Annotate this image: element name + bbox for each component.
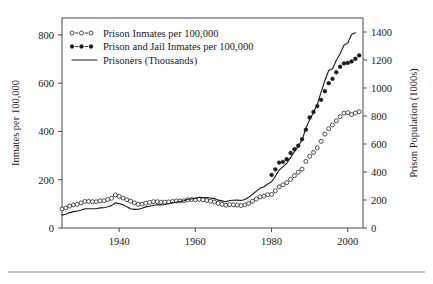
data-point	[75, 202, 79, 206]
data-point	[129, 199, 133, 203]
x-tick-label: 1980	[261, 236, 282, 247]
data-point	[231, 203, 235, 207]
data-point	[220, 202, 224, 206]
data-point	[212, 200, 216, 204]
data-point	[102, 199, 106, 203]
data-point	[281, 183, 285, 187]
data-point	[216, 201, 220, 205]
legend-marker-swatch	[89, 45, 93, 49]
data-point	[327, 81, 331, 85]
data-point	[87, 199, 91, 203]
data-point	[342, 111, 346, 115]
data-point	[270, 192, 274, 196]
data-point	[346, 111, 350, 115]
data-point	[300, 167, 304, 171]
y-tick-label: 200	[38, 175, 54, 186]
x-tick-label: 2000	[337, 236, 358, 247]
legend-marker-swatch	[80, 45, 84, 49]
data-point	[304, 159, 308, 163]
data-point	[159, 200, 163, 204]
data-point	[281, 160, 285, 164]
data-point	[163, 200, 167, 204]
y-tick-label: 0	[49, 223, 54, 234]
data-point	[209, 199, 213, 203]
data-point	[334, 70, 338, 74]
data-point	[68, 204, 72, 208]
legend-marker-swatch	[80, 31, 84, 35]
data-point	[125, 198, 129, 202]
data-point	[350, 113, 354, 117]
data-point	[338, 115, 342, 119]
data-point	[235, 203, 239, 207]
data-point	[277, 185, 281, 189]
figure-container: 0200400600800020040060080010001200140019…	[0, 0, 433, 284]
data-point	[277, 161, 281, 165]
legend-label: Prison Inmates per 100,000	[103, 28, 219, 39]
data-point	[346, 61, 350, 65]
legend-marker-swatch	[89, 31, 93, 35]
data-point	[353, 57, 357, 61]
data-point	[151, 200, 155, 204]
y2-tick-label: 600	[371, 139, 387, 150]
y-tick-label: 600	[38, 78, 54, 89]
data-point	[273, 189, 277, 193]
data-point	[201, 198, 205, 202]
data-point	[258, 195, 262, 199]
y2-tick-label: 200	[371, 195, 387, 206]
data-point	[296, 170, 300, 174]
y2-tick-label: 1000	[371, 83, 392, 94]
data-point	[289, 177, 293, 181]
data-point	[251, 199, 255, 203]
data-point	[247, 201, 251, 205]
data-point	[94, 200, 98, 204]
data-point	[205, 198, 209, 202]
data-point	[338, 65, 342, 69]
data-point	[273, 167, 277, 171]
data-point	[132, 201, 136, 205]
y2-tick-label: 1400	[371, 27, 392, 38]
data-point	[140, 202, 144, 206]
data-point	[350, 60, 354, 64]
data-point	[262, 194, 266, 198]
data-point	[155, 200, 159, 204]
data-point	[110, 196, 114, 200]
data-point	[285, 181, 289, 185]
data-point	[79, 201, 83, 205]
data-point	[308, 154, 312, 158]
data-point	[121, 196, 125, 200]
data-point	[357, 110, 361, 114]
data-point	[117, 194, 121, 198]
data-point	[224, 203, 228, 207]
data-point	[228, 203, 232, 207]
data-point	[315, 146, 319, 150]
data-point	[148, 200, 152, 204]
y-tick-label: 400	[38, 126, 54, 137]
legend-marker-swatch	[70, 31, 74, 35]
data-point	[319, 139, 323, 143]
data-point	[254, 197, 258, 201]
data-point	[270, 173, 274, 177]
data-point	[353, 111, 357, 115]
data-point	[289, 151, 293, 155]
prison-population-chart: 0200400600800020040060080010001200140019…	[0, 0, 433, 284]
x-tick-label: 1940	[109, 236, 130, 247]
y2-axis-title: Prison Population (1000s)	[408, 68, 420, 178]
data-point	[113, 193, 117, 197]
data-point	[292, 174, 296, 178]
data-point	[136, 202, 140, 206]
legend-label: Prison and Jail Inmates per 100,000	[103, 41, 253, 52]
data-point	[243, 203, 247, 207]
legend-label: Prisoners (Thousands)	[103, 55, 198, 67]
data-point	[98, 199, 102, 203]
data-point	[323, 89, 327, 93]
data-point	[323, 132, 327, 136]
data-point	[106, 198, 110, 202]
data-point	[90, 200, 94, 204]
data-point	[266, 193, 270, 197]
y-axis-title: Inmates per 100,000	[10, 80, 21, 166]
data-point	[60, 207, 64, 211]
data-point	[239, 204, 243, 208]
data-point	[331, 77, 335, 81]
y2-tick-label: 800	[371, 111, 387, 122]
legend-marker-swatch	[70, 45, 74, 49]
